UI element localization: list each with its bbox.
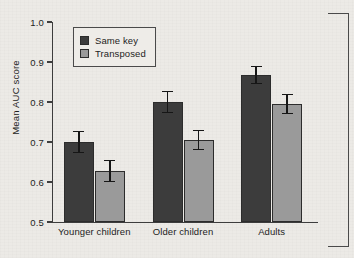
error-bar-cap-top	[162, 91, 173, 92]
bar-transposed	[272, 104, 302, 222]
bar-same-key	[64, 142, 94, 222]
figure-panel: Mean AUC score 1.00.90.80.70.60.5 Younge…	[0, 0, 354, 258]
error-bar-stem	[109, 160, 110, 182]
error-bar-cap-top	[104, 160, 115, 161]
error-bar-cap-top	[73, 131, 84, 132]
legend-item-transposed: Transposed	[80, 48, 146, 59]
error-bar-stem	[167, 91, 168, 113]
error-bar-cap-bottom	[162, 112, 173, 113]
y-axis-line	[52, 22, 53, 222]
y-tick-label: 0.7	[4, 137, 44, 148]
error-bar-cap-bottom	[193, 149, 204, 150]
category-label: Younger children	[58, 226, 131, 237]
error-bar-stem	[255, 66, 256, 84]
y-tick-label: 1.0	[4, 17, 44, 28]
y-tick-label: 0.6	[4, 177, 44, 188]
category-label: Older children	[153, 226, 214, 237]
y-tick-mark	[47, 101, 52, 102]
bar-same-key	[241, 75, 271, 222]
error-bar-cap-bottom	[104, 181, 115, 182]
y-tick-label: 0.8	[4, 97, 44, 108]
legend: Same key Transposed	[73, 27, 156, 67]
crop-bracket-mark	[328, 13, 349, 247]
category-label: Adults	[258, 226, 285, 237]
legend-label-transposed: Transposed	[95, 48, 146, 59]
y-tick-label: 0.5	[4, 217, 44, 228]
y-tick-mark	[47, 61, 52, 62]
error-bar-cap-top	[282, 94, 293, 95]
y-tick-label: 0.9	[4, 57, 44, 68]
legend-swatch-transposed	[80, 49, 89, 58]
error-bar-stem	[78, 131, 79, 153]
error-bar-cap-bottom	[251, 83, 262, 84]
error-bar-cap-top	[251, 66, 262, 67]
y-tick-mark	[47, 181, 52, 182]
error-bar-stem	[286, 94, 287, 114]
error-bar-cap-bottom	[282, 113, 293, 114]
error-bar-cap-bottom	[73, 152, 84, 153]
bar-transposed	[184, 140, 214, 222]
legend-item-same-key: Same key	[80, 35, 146, 46]
error-bar-stem	[198, 130, 199, 151]
bar-same-key	[153, 102, 183, 222]
error-bar-cap-top	[193, 130, 204, 131]
legend-label-same-key: Same key	[95, 35, 138, 46]
y-tick-mark	[47, 21, 52, 22]
legend-swatch-same-key	[80, 36, 89, 45]
y-tick-mark	[47, 141, 52, 142]
y-tick-mark	[47, 221, 52, 222]
